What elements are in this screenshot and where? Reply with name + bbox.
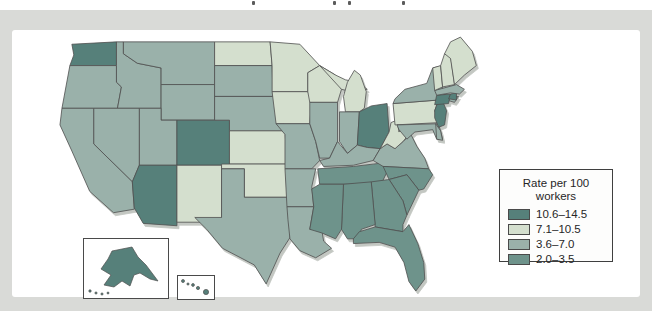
- state-FL: [353, 225, 424, 291]
- legend-label: 10.6–14.5: [536, 208, 587, 220]
- legend-row: 3.6–7.0: [508, 238, 604, 250]
- hawaii-inset-box: [177, 275, 215, 300]
- cropped-text-fragment: [402, 1, 405, 5]
- state-ND: [215, 42, 272, 66]
- legend-swatch-2.0-3.5: [508, 254, 530, 265]
- state-CO: [177, 120, 230, 165]
- aleutian-island: [89, 290, 91, 292]
- state-CT: [435, 94, 451, 105]
- state-NM: [177, 165, 222, 222]
- cropped-text-fragment: [252, 1, 255, 5]
- legend-swatch-10.6-14.5: [508, 209, 530, 220]
- aleutian-island: [101, 293, 103, 295]
- legend-label: 2.0–3.5: [536, 253, 574, 265]
- cropped-text-fragment: [348, 1, 351, 5]
- alaska-map: [84, 239, 168, 298]
- hawaii-island: [192, 284, 195, 287]
- legend-row: 2.0–3.5: [508, 253, 604, 265]
- aleutian-island: [95, 292, 97, 294]
- state-WA: [70, 42, 117, 66]
- state-SD: [215, 66, 273, 97]
- hawaii-island: [187, 283, 189, 285]
- legend-swatch-7.1-10.5: [508, 224, 530, 235]
- state-PA: [393, 100, 441, 125]
- legend-rows: 10.6–14.5 7.1–10.5 3.6–7.0 2.0–3.5: [508, 208, 604, 265]
- map-legend: Rate per 100 workers 10.6–14.5 7.1–10.5 …: [499, 169, 613, 262]
- legend-title-line2: workers: [508, 190, 604, 203]
- state-WY: [161, 85, 215, 121]
- legend-label: 3.6–7.0: [536, 238, 574, 250]
- figure-canvas: Rate per 100 workers 10.6–14.5 7.1–10.5 …: [0, 0, 652, 318]
- legend-title-line1: Rate per 100: [508, 177, 604, 190]
- state-KS: [229, 131, 286, 164]
- state-MI: [343, 70, 366, 112]
- state-MS: [310, 184, 344, 239]
- legend-label: 7.1–10.5: [536, 223, 581, 235]
- alaska-inset-box: [83, 238, 169, 299]
- state-AR: [285, 169, 316, 207]
- state-IA: [272, 92, 312, 124]
- state-OR: [62, 66, 121, 109]
- legend-row: 7.1–10.5: [508, 223, 604, 235]
- hawaii-map: [178, 276, 214, 299]
- state-AZ: [132, 165, 177, 226]
- aleutian-island: [107, 292, 109, 294]
- state-AK: [101, 247, 158, 287]
- hawaii-island: [203, 289, 208, 294]
- cropped-text-fragment: [333, 1, 336, 5]
- hawaii-island: [196, 286, 199, 289]
- legend-swatch-3.6-7.0: [508, 239, 530, 250]
- hawaii-island: [182, 280, 185, 283]
- legend-row: 10.6–14.5: [508, 208, 604, 220]
